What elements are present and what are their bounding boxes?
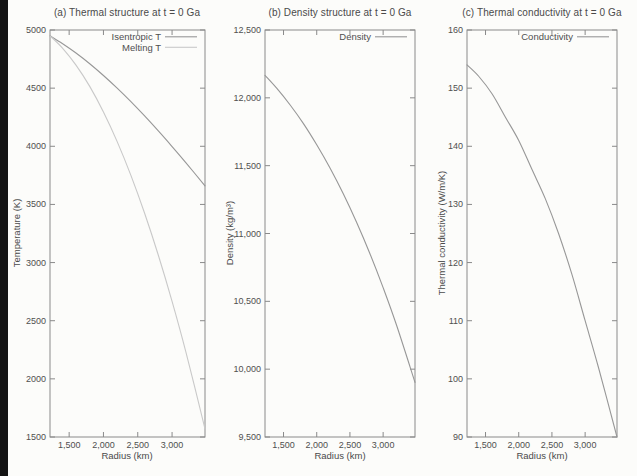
y-tick-label: 120 bbox=[448, 258, 463, 268]
panel-c-y-axis-label: Thermal conductivity (W/m/K) bbox=[436, 171, 447, 296]
panel-c-x-axis-label: Radius (km) bbox=[516, 450, 567, 461]
x-tick-label: 2,500 bbox=[339, 440, 362, 450]
y-tick-label: 2000 bbox=[26, 374, 46, 384]
y-tick-label: 3000 bbox=[26, 258, 46, 268]
three-panel-chart: 1,5002,0002,5003,00015002000250030003500… bbox=[0, 0, 637, 476]
x-tick-label: 1,500 bbox=[58, 440, 81, 450]
y-tick-label: 12,000 bbox=[233, 93, 261, 103]
y-tick-label: 10,000 bbox=[233, 364, 261, 374]
y-tick-label: 4000 bbox=[26, 141, 46, 151]
y-tick-label: 160 bbox=[448, 25, 463, 35]
y-tick-label: 5000 bbox=[26, 25, 46, 35]
panel-a-frame bbox=[50, 30, 205, 437]
panel-a-title: (a) Thermal structure at t = 0 Ga bbox=[54, 7, 200, 18]
legend-label: Isentropic T bbox=[112, 31, 162, 42]
y-tick-label: 11,000 bbox=[234, 229, 261, 239]
density-curve bbox=[265, 75, 415, 382]
x-tick-label: 3,000 bbox=[372, 440, 395, 450]
y-tick-label: 4500 bbox=[26, 83, 46, 93]
y-tick-label: 130 bbox=[448, 199, 463, 209]
y-tick-label: 11,500 bbox=[234, 161, 261, 171]
isentropic-t-curve bbox=[50, 36, 205, 186]
conductivity-curve bbox=[467, 65, 617, 437]
y-tick-label: 100 bbox=[448, 374, 463, 384]
scan-artifact-bar bbox=[0, 0, 8, 476]
x-tick-label: 2,500 bbox=[126, 440, 149, 450]
x-tick-label: 1,500 bbox=[474, 440, 497, 450]
y-tick-label: 10,500 bbox=[233, 296, 261, 306]
panel-b-frame bbox=[265, 30, 415, 437]
y-tick-label: 9,500 bbox=[238, 432, 261, 442]
x-tick-label: 3,000 bbox=[161, 440, 184, 450]
panel-b: 1,5002,0002,5003,0009,50010,00010,50011,… bbox=[233, 25, 415, 450]
legend-label: Conductivity bbox=[521, 31, 573, 42]
x-tick-label: 1,500 bbox=[272, 440, 295, 450]
y-tick-label: 110 bbox=[449, 316, 463, 326]
y-tick-label: 90 bbox=[453, 432, 463, 442]
panel-b-x-axis-label: Radius (km) bbox=[314, 450, 365, 461]
legend-label: Density bbox=[339, 31, 371, 42]
panel-c-frame bbox=[467, 30, 617, 437]
panel-c-title: (c) Thermal conductivity at t = 0 Ga bbox=[462, 7, 621, 18]
x-tick-label: 2,000 bbox=[92, 440, 115, 450]
panel-a: 1,5002,0002,5003,00015002000250030003500… bbox=[26, 25, 205, 450]
legend-label: Melting T bbox=[122, 42, 161, 53]
y-tick-label: 2500 bbox=[26, 316, 46, 326]
x-tick-label: 2,000 bbox=[305, 440, 328, 450]
panel-a-x-axis-label: Radius (km) bbox=[101, 450, 152, 461]
x-tick-label: 2,500 bbox=[541, 440, 564, 450]
y-tick-label: 3500 bbox=[26, 199, 46, 209]
y-tick-label: 140 bbox=[448, 141, 463, 151]
x-tick-label: 3,000 bbox=[574, 440, 597, 450]
y-tick-label: 1500 bbox=[26, 432, 46, 442]
panel-c: 1,5002,0002,5003,00090100110120130140150… bbox=[448, 25, 617, 450]
panel-b-y-axis-label: Density (kg/m³) bbox=[224, 201, 235, 265]
melting-t-curve bbox=[50, 36, 205, 429]
x-tick-label: 2,000 bbox=[507, 440, 530, 450]
figure-root: 1,5002,0002,5003,00015002000250030003500… bbox=[0, 0, 637, 476]
y-tick-label: 150 bbox=[448, 83, 463, 93]
y-tick-label: 12,500 bbox=[233, 25, 261, 35]
panel-b-title: (b) Density structure at t = 0 Ga bbox=[268, 7, 411, 18]
panel-a-y-axis-label: Temperature (K) bbox=[11, 199, 22, 268]
